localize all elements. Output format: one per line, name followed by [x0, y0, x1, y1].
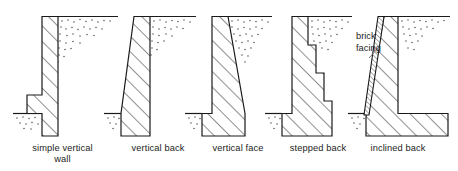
caption-inclined-back: inclined back — [338, 143, 458, 154]
soil-stipple-back — [401, 19, 444, 50]
wall-section-outline — [27, 17, 58, 137]
soil-stipple-back — [311, 19, 348, 50]
wall-section-outline — [121, 17, 150, 137]
wall-vertical-face — [185, 17, 272, 137]
soil-stipple-back — [57, 19, 110, 63]
soil-stipple-front — [188, 116, 200, 129]
soil-stipple-front — [351, 116, 364, 129]
soil-stipple-back — [231, 19, 268, 62]
wall-section-outline — [202, 17, 245, 137]
wall-stepped-back — [265, 17, 352, 137]
soil-stipple-front — [268, 116, 280, 129]
wall-simple-vertical-wall — [13, 17, 118, 137]
annotation-brick-facing: brick facing — [356, 31, 404, 54]
soil-stipple-front — [16, 116, 38, 129]
soil-stipple-back — [150, 19, 190, 55]
soil-stipple-front — [107, 116, 119, 129]
wall-vertical-back — [104, 17, 196, 137]
